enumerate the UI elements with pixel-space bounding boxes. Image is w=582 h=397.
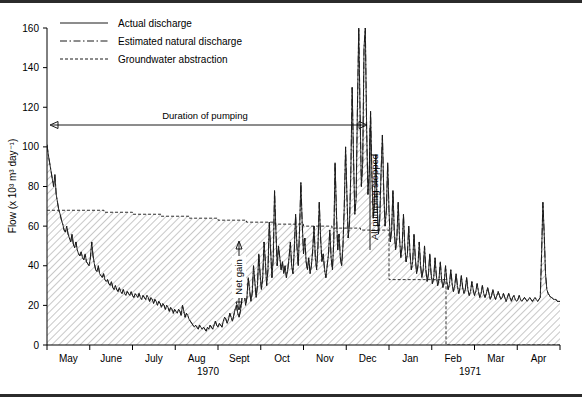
x-axis-month-label-may: May [59,353,78,364]
page-top-rule [0,0,582,3]
legend-label-groundwater-abstraction: Groundwater abstraction [118,54,228,65]
year-label-1971: 1971 [459,366,482,377]
y-axis-tick-label: 20 [28,300,40,311]
x-axis-month-label-aug: Aug [188,353,206,364]
x-axis-month-label-apr: Apr [531,353,547,364]
duration-of-pumping-label: Duration of pumping [162,110,248,121]
y-axis-tick-label: 160 [22,23,39,34]
y-axis-tick-label: 60 [28,221,40,232]
y-axis-ticks [43,28,47,345]
x-axis-month-label-sept: Sept [229,353,250,364]
x-axis-ticks [47,345,560,350]
x-axis-month-label-nov: Nov [316,353,334,364]
x-axis-month-label-mar: Mar [487,353,505,364]
x-axis-month-labels: MayJuneJulyAugSeptOctNovDecJanFebMarApr [59,353,547,364]
legend: Actual discharge Estimated natural disch… [60,18,242,65]
x-axis-month-label-oct: Oct [274,353,290,364]
y-axis-tick-label: 100 [22,141,39,152]
y-axis-tick-label: 40 [28,260,40,271]
x-axis-month-label-dec: Dec [359,353,377,364]
year-label-1970: 1970 [197,366,220,377]
y-axis-tick-label: 80 [28,181,40,192]
hydrograph-chart: Flow (x 10³ m³ day⁻¹) 020406080100120140… [0,0,582,397]
all-pumping-stopped-label: All pumping stopped [369,154,380,240]
y-axis-tick-label: 140 [22,62,39,73]
net-gain-label: Net gain [233,259,244,294]
chart-canvas: Flow (x 10³ m³ day⁻¹) 020406080100120140… [0,0,582,397]
x-axis-month-label-june: June [100,353,122,364]
y-axis-tick-label: 120 [22,102,39,113]
abstraction-fill-region [47,28,560,345]
y-axis-title: Flow (x 10³ m³ day⁻¹) [7,139,18,233]
legend-label-actual-discharge: Actual discharge [118,18,192,29]
x-axis-month-label-july: July [145,353,163,364]
legend-label-estimated-natural-discharge: Estimated natural discharge [118,36,242,47]
annotation-duration-of-pumping: Duration of pumping [50,110,367,129]
x-axis-month-label-feb: Feb [445,353,463,364]
y-axis-tick-label: 0 [33,340,39,351]
x-axis-month-label-jan: Jan [402,353,418,364]
y-axis-tick-labels: 020406080100120140160 [22,23,39,351]
